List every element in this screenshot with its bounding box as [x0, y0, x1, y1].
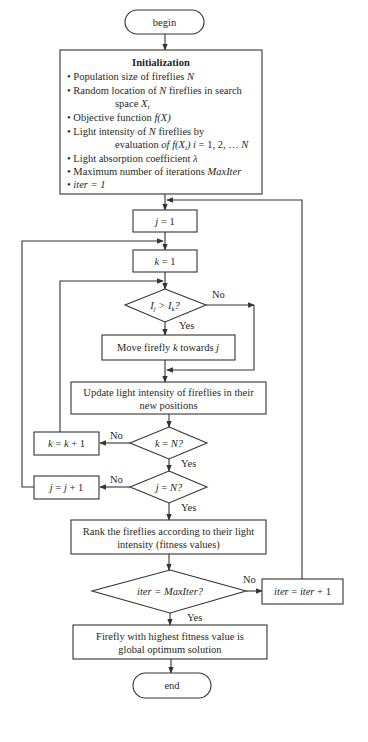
- init-item-light-intensity: • Light intensity of N fireflies by: [67, 126, 205, 137]
- iter-check-label: iter = MaxIter?: [137, 586, 204, 597]
- k-check-no-label: No: [110, 430, 123, 441]
- global-optimum-line-2: global optimum solution: [118, 644, 222, 655]
- initialization-box: Initialization • Population size of fire…: [60, 50, 262, 194]
- k-init-label: k = 1: [154, 256, 175, 267]
- init-item-absorption: • Light absorption coefficient λ: [67, 153, 198, 164]
- update-line-1: Update light intensity of fireflies in t…: [83, 387, 254, 398]
- j-check-no-label: No: [110, 474, 123, 485]
- global-optimum-line-1: Firefly with highest fitness value is: [96, 631, 244, 642]
- rank-line-2: intensity (fitness values): [117, 539, 220, 551]
- move-firefly-box: Move firefly k towards j: [102, 335, 235, 360]
- end-terminal: end: [133, 673, 211, 698]
- initialization-title: Initialization: [132, 57, 190, 68]
- iter-check-decision: iter = MaxIter?: [92, 570, 246, 613]
- j-check-yes-label: Yes: [181, 502, 196, 513]
- compare-no-label: No: [212, 289, 225, 300]
- j-increment-label: j = j + 1: [48, 482, 83, 493]
- k-increment-label: k = k + 1: [48, 438, 85, 449]
- rank-line-1: Rank the fireflies according to their li…: [83, 526, 255, 537]
- end-label: end: [164, 680, 180, 691]
- compare-yes-label: Yes: [179, 320, 194, 331]
- init-item-iter: • iter = 1: [67, 179, 105, 190]
- k-check-decision: k = N?: [130, 427, 207, 459]
- k-check-yes-label: Yes: [181, 458, 196, 469]
- begin-terminal: begin: [125, 10, 204, 34]
- flowchart-canvas: begin Initialization • Population size o…: [0, 0, 368, 742]
- iter-check-yes-label: Yes: [187, 612, 202, 623]
- k-increment-box: k = k + 1: [34, 432, 99, 455]
- move-firefly-label: Move firefly k towards j: [117, 342, 219, 353]
- init-item-max-iter: • Maximum number of iterations MaxIter: [67, 166, 242, 177]
- k-check-label: k = N?: [155, 438, 184, 449]
- j-increment-box: j = j + 1: [34, 476, 99, 499]
- global-optimum-box: Firefly with highest fitness value is gl…: [73, 625, 267, 659]
- update-intensity-box: Update light intensity of fireflies in t…: [71, 382, 266, 414]
- compare-decision: Ij > Ik?: [125, 289, 206, 322]
- iter-increment-label: iter = iter + 1: [274, 586, 331, 597]
- rank-fireflies-box: Rank the fireflies according to their li…: [71, 520, 266, 554]
- j-check-label: j = N?: [154, 482, 183, 493]
- j-init-box: j = 1: [133, 210, 197, 232]
- init-item-random-location: • Random location of N fireflies in sear…: [67, 85, 243, 96]
- begin-label: begin: [153, 17, 177, 28]
- init-item-population: • Population size of fireflies N: [67, 71, 195, 82]
- update-line-2: new positions: [139, 400, 197, 411]
- k-init-box: k = 1: [133, 250, 197, 272]
- iter-increment-box: iter = iter + 1: [262, 579, 343, 604]
- iter-check-no-label: No: [243, 574, 256, 585]
- j-init-label: j = 1: [153, 216, 174, 227]
- init-item-objective: • Objective function f(X): [67, 112, 171, 124]
- j-check-decision: j = N?: [130, 471, 207, 503]
